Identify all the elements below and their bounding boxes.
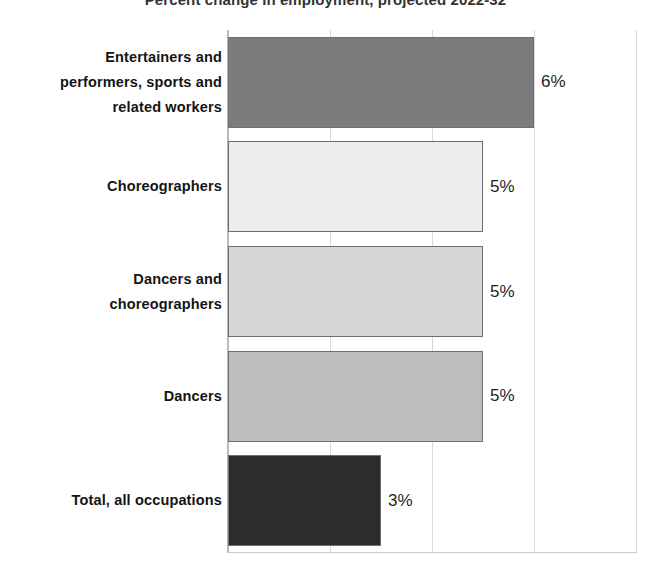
bar[interactable] — [228, 246, 483, 337]
bar-row[interactable]: 5% — [228, 246, 636, 337]
category-label-line: Dancers — [0, 384, 222, 409]
bar-row[interactable]: 5% — [228, 351, 636, 442]
bar-value-label: 5% — [483, 177, 515, 197]
category-label-line: Dancers and — [0, 267, 222, 292]
gridline-8pct — [636, 30, 637, 552]
bar-value-label: 5% — [483, 282, 515, 302]
bar-value-label: 5% — [483, 386, 515, 406]
category-label-line: Total, all occupations — [0, 488, 222, 513]
bar-row[interactable]: 5% — [228, 141, 636, 232]
bar[interactable] — [228, 351, 483, 442]
bar-row[interactable]: 3% — [228, 455, 636, 546]
category-label-line: related workers — [0, 95, 222, 120]
category-label: Dancers andchoreographers — [0, 267, 222, 317]
bar-row[interactable]: 6% — [228, 37, 636, 128]
bar-rows: 6%5%5%5%3% — [228, 30, 636, 552]
category-label: Dancers — [0, 384, 222, 409]
category-label-line: choreographers — [0, 292, 222, 317]
bar[interactable] — [228, 455, 381, 546]
bar[interactable] — [228, 141, 483, 232]
category-label: Entertainers andperformers, sports andre… — [0, 45, 222, 120]
plot-area: 6%5%5%5%3% — [227, 30, 637, 553]
category-label-line: Entertainers and — [0, 45, 222, 70]
category-label: Choreographers — [0, 174, 222, 199]
category-label-line: performers, sports and — [0, 70, 222, 95]
bar-value-label: 6% — [534, 72, 566, 92]
bar[interactable] — [228, 37, 534, 128]
chart-title: Percent change in employment, projected … — [0, 0, 651, 8]
category-label-line: Choreographers — [0, 174, 222, 199]
chart-container: Percent change in employment, projected … — [0, 0, 651, 568]
category-label: Total, all occupations — [0, 488, 222, 513]
bar-value-label: 3% — [381, 491, 413, 511]
